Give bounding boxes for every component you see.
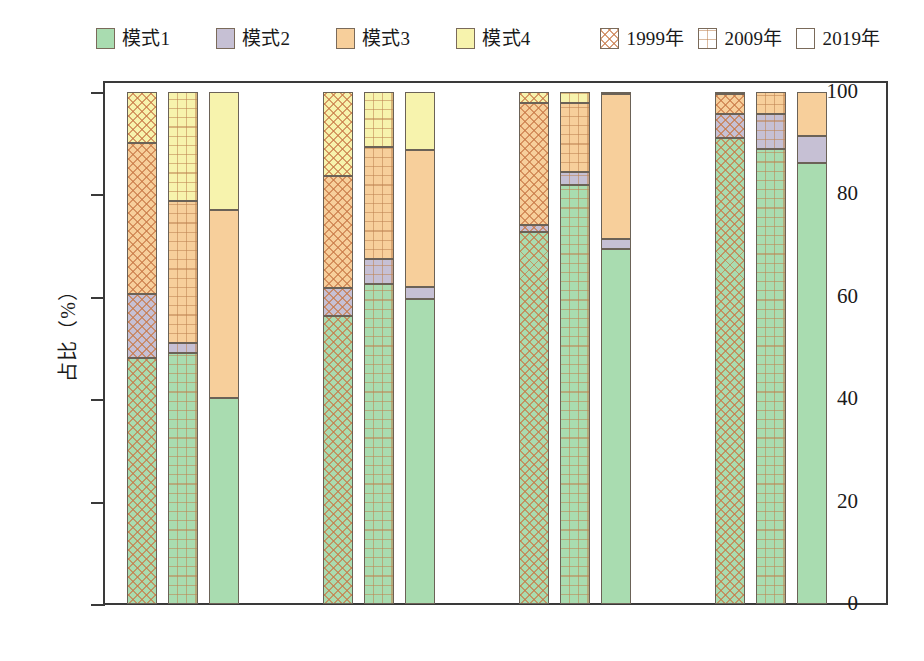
bar-国际级-2009年[interactable] bbox=[364, 92, 394, 604]
bar-segment-模式1 bbox=[323, 316, 353, 604]
legend-item-mode4: 模式4 bbox=[456, 28, 530, 49]
bar-segment-模式2 bbox=[519, 225, 549, 232]
bar-segment-模式3 bbox=[519, 103, 549, 225]
legend-item-2009: 2009年 bbox=[698, 28, 782, 49]
legend-label-mode2: 模式2 bbox=[242, 29, 290, 48]
bar-全球级-2019年[interactable] bbox=[209, 92, 239, 604]
bar-segment-模式2 bbox=[797, 136, 827, 163]
bar-国家级-2019年[interactable] bbox=[601, 92, 631, 604]
mode1-swatch-icon bbox=[96, 28, 115, 49]
legend-label-2009: 2009年 bbox=[724, 29, 782, 48]
y-tick-mark bbox=[91, 399, 105, 401]
legend-label-2019: 2019年 bbox=[822, 29, 880, 48]
mode4-swatch-icon bbox=[456, 28, 475, 49]
bar-segment-模式3 bbox=[127, 143, 157, 294]
bar-segment-模式4 bbox=[405, 92, 435, 150]
bar-segment-模式3 bbox=[323, 176, 353, 288]
y-tick-mark bbox=[91, 92, 105, 94]
bar-segment-模式1 bbox=[405, 299, 435, 604]
mode2-swatch-icon bbox=[216, 28, 235, 49]
bar-segment-模式4 bbox=[715, 92, 745, 94]
bar-segment-模式3 bbox=[168, 201, 198, 343]
bar-segment-模式2 bbox=[323, 288, 353, 316]
bar-国际级-1999年[interactable] bbox=[323, 92, 353, 604]
bar-非枢纽-1999年[interactable] bbox=[715, 92, 745, 604]
legend-item-2019: 2019年 bbox=[796, 28, 880, 49]
bar-segment-模式4 bbox=[168, 92, 198, 201]
bar-非枢纽-2019年[interactable] bbox=[797, 92, 827, 604]
legend-item-mode2: 模式2 bbox=[216, 28, 290, 49]
y-axis-label: 占比（%） bbox=[52, 280, 81, 382]
bar-全球级-1999年[interactable] bbox=[127, 92, 157, 604]
bar-segment-模式3 bbox=[601, 94, 631, 240]
bar-segment-模式3 bbox=[797, 92, 827, 136]
bar-非枢纽-2009年[interactable] bbox=[756, 92, 786, 604]
bar-segment-模式2 bbox=[364, 259, 394, 284]
chart-root: 模式1 模式2 模式3 模式4 1999年 2009年 bbox=[0, 0, 924, 661]
bar-国家级-1999年[interactable] bbox=[519, 92, 549, 604]
bar-segment-模式1 bbox=[560, 185, 590, 604]
bar-segment-模式3 bbox=[209, 210, 239, 398]
legend-label-mode1: 模式1 bbox=[122, 29, 170, 48]
year-2009-pattern-icon bbox=[698, 28, 717, 49]
bar-segment-模式3 bbox=[715, 94, 745, 113]
bar-segment-模式2 bbox=[127, 294, 157, 358]
legend-label-mode3: 模式3 bbox=[362, 29, 410, 48]
bar-segment-模式1 bbox=[756, 149, 786, 604]
y-tick-mark bbox=[91, 604, 105, 606]
mode3-swatch-icon bbox=[336, 28, 355, 49]
legend-years: 1999年 2009年 2019年 bbox=[600, 28, 894, 49]
bar-segment-模式2 bbox=[405, 287, 435, 300]
y-tick-mark bbox=[91, 194, 105, 196]
bar-segment-模式1 bbox=[601, 249, 631, 604]
bar-segment-模式4 bbox=[601, 92, 631, 94]
bar-segment-模式4 bbox=[323, 92, 353, 176]
bar-segment-模式4 bbox=[364, 92, 394, 147]
bar-segment-模式2 bbox=[756, 114, 786, 149]
bar-segment-模式4 bbox=[560, 92, 590, 103]
bar-segment-模式1 bbox=[127, 358, 157, 604]
bar-segment-模式2 bbox=[168, 343, 198, 353]
bar-国家级-2009年[interactable] bbox=[560, 92, 590, 604]
bar-segment-模式3 bbox=[560, 103, 590, 172]
legend-label-mode4: 模式4 bbox=[482, 29, 530, 48]
plot-area: 100806040200全球级国际级国家级非枢纽 bbox=[105, 92, 886, 604]
bar-segment-模式1 bbox=[209, 398, 239, 604]
legend-item-mode3: 模式3 bbox=[336, 28, 410, 49]
y-tick-mark bbox=[91, 297, 105, 299]
chart-legend: 模式1 模式2 模式3 模式4 1999年 2009年 bbox=[0, 18, 924, 58]
legend-item-1999: 1999年 bbox=[600, 28, 684, 49]
year-2019-pattern-icon bbox=[796, 28, 815, 49]
bar-segment-模式4 bbox=[519, 92, 549, 103]
bar-segment-模式1 bbox=[168, 353, 198, 604]
legend-label-1999: 1999年 bbox=[626, 29, 684, 48]
legend-modes: 模式1 模式2 模式3 模式4 bbox=[96, 28, 600, 49]
bar-segment-模式1 bbox=[715, 138, 745, 604]
bar-segment-模式3 bbox=[364, 147, 394, 259]
bar-segment-模式1 bbox=[797, 163, 827, 604]
bar-segment-模式4 bbox=[127, 92, 157, 143]
year-1999-pattern-icon bbox=[600, 28, 619, 49]
bar-segment-模式4 bbox=[209, 92, 239, 210]
bar-segment-模式3 bbox=[405, 150, 435, 287]
bar-segment-模式1 bbox=[519, 232, 549, 604]
y-tick-mark bbox=[91, 502, 105, 504]
bar-segment-模式1 bbox=[364, 284, 394, 604]
bar-全球级-2009年[interactable] bbox=[168, 92, 198, 604]
bar-国际级-2019年[interactable] bbox=[405, 92, 435, 604]
bar-segment-模式2 bbox=[560, 172, 590, 185]
legend-item-mode1: 模式1 bbox=[96, 28, 170, 49]
bar-segment-模式2 bbox=[715, 114, 745, 139]
bar-segment-模式3 bbox=[756, 92, 786, 114]
bar-segment-模式2 bbox=[601, 239, 631, 248]
